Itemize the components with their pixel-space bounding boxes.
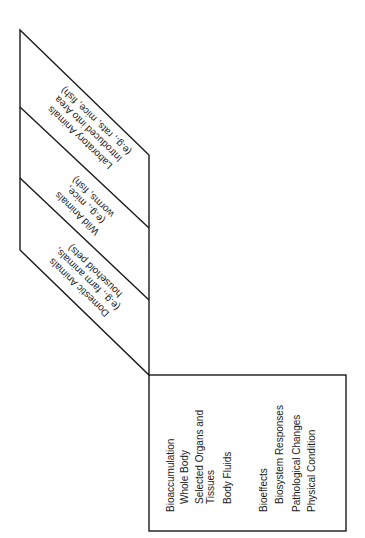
heading-bioeffects: Bioeffects: [258, 468, 270, 512]
diagram-canvas: Laboratory Animals Introduced into Area …: [0, 0, 365, 538]
item-tissues: Tissues: [205, 470, 217, 504]
item-biosystem-responses: Biosystem Responses: [274, 405, 286, 504]
item-body-fluids: Body Fluids: [222, 452, 234, 504]
item-pathological-changes: Pathological Changes: [291, 415, 303, 512]
item-whole-body: Whole Body: [179, 450, 191, 504]
item-physical-condition: Physical Condition: [306, 430, 318, 512]
heading-bioaccumulation: Bioaccumulation: [165, 439, 177, 512]
